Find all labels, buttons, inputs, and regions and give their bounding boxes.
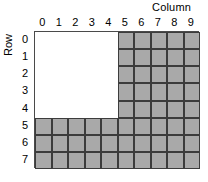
grid-cell[interactable] bbox=[101, 152, 118, 169]
grid-cell[interactable] bbox=[101, 66, 118, 83]
grid-cell[interactable] bbox=[167, 83, 184, 100]
grid-cell[interactable] bbox=[151, 83, 168, 100]
row-tick-4: 4 bbox=[18, 100, 32, 117]
grid-cell[interactable] bbox=[68, 83, 85, 100]
grid-cell[interactable] bbox=[35, 152, 52, 169]
grid-cell[interactable] bbox=[85, 83, 102, 100]
grid-cell[interactable] bbox=[52, 83, 69, 100]
grid-cell[interactable] bbox=[118, 83, 135, 100]
grid-cell[interactable] bbox=[68, 118, 85, 135]
column-tick-5: 5 bbox=[117, 16, 134, 29]
grid-cell[interactable] bbox=[35, 32, 52, 49]
grid-cell[interactable] bbox=[184, 66, 201, 83]
grid-cell[interactable] bbox=[68, 49, 85, 66]
row-tick-3: 3 bbox=[18, 82, 32, 99]
grid-cell[interactable] bbox=[68, 152, 85, 169]
grid-cell[interactable] bbox=[118, 118, 135, 135]
grid-cell[interactable] bbox=[35, 66, 52, 83]
grid-cell[interactable] bbox=[118, 152, 135, 169]
grid-cell[interactable] bbox=[118, 32, 135, 49]
row-tick-6: 6 bbox=[18, 134, 32, 151]
grid-cell[interactable] bbox=[167, 49, 184, 66]
grid-cell[interactable] bbox=[35, 118, 52, 135]
grid-cell[interactable] bbox=[134, 101, 151, 118]
grid-cell[interactable] bbox=[85, 49, 102, 66]
grid-cell[interactable] bbox=[68, 66, 85, 83]
grid-cell[interactable] bbox=[101, 118, 118, 135]
grid-cell[interactable] bbox=[167, 32, 184, 49]
grid-cell[interactable] bbox=[134, 66, 151, 83]
grid-cell[interactable] bbox=[85, 152, 102, 169]
grid-cell[interactable] bbox=[118, 135, 135, 152]
row-tick-labels: 01234567 bbox=[18, 31, 32, 168]
grid-cell[interactable] bbox=[85, 101, 102, 118]
grid-cell[interactable] bbox=[151, 66, 168, 83]
column-tick-8: 8 bbox=[166, 16, 183, 29]
column-tick-3: 3 bbox=[84, 16, 101, 29]
grid-cell[interactable] bbox=[151, 32, 168, 49]
grid-cell[interactable] bbox=[151, 135, 168, 152]
grid-cell[interactable] bbox=[101, 32, 118, 49]
grid-cell[interactable] bbox=[35, 101, 52, 118]
grid-cell[interactable] bbox=[35, 49, 52, 66]
grid-cell[interactable] bbox=[85, 118, 102, 135]
row-tick-7: 7 bbox=[18, 151, 32, 168]
grid-cell[interactable] bbox=[52, 66, 69, 83]
grid-cell[interactable] bbox=[52, 32, 69, 49]
grid-cell[interactable] bbox=[118, 101, 135, 118]
grid-cell[interactable] bbox=[184, 101, 201, 118]
grid-plot-area bbox=[34, 31, 199, 168]
grid-cell[interactable] bbox=[184, 49, 201, 66]
grid-cell[interactable] bbox=[134, 135, 151, 152]
grid-cell[interactable] bbox=[167, 135, 184, 152]
grid-cell[interactable] bbox=[101, 101, 118, 118]
column-tick-7: 7 bbox=[150, 16, 167, 29]
grid-cell[interactable] bbox=[68, 135, 85, 152]
grid-cell[interactable] bbox=[184, 152, 201, 169]
grid-cell[interactable] bbox=[167, 118, 184, 135]
column-tick-0: 0 bbox=[34, 16, 51, 29]
grid-cell[interactable] bbox=[35, 83, 52, 100]
grid-cell[interactable] bbox=[134, 83, 151, 100]
grid-cell[interactable] bbox=[52, 49, 69, 66]
grid-cell[interactable] bbox=[151, 152, 168, 169]
grid-cell[interactable] bbox=[184, 118, 201, 135]
figure-canvas: Column Row 0123456789 01234567 bbox=[0, 0, 208, 182]
grid-cell[interactable] bbox=[184, 83, 201, 100]
grid-cells bbox=[35, 32, 198, 167]
grid-cell[interactable] bbox=[35, 135, 52, 152]
grid-cell[interactable] bbox=[134, 32, 151, 49]
column-axis-title: Column bbox=[152, 1, 191, 13]
grid-cell[interactable] bbox=[118, 66, 135, 83]
column-tick-6: 6 bbox=[133, 16, 150, 29]
grid-cell[interactable] bbox=[68, 101, 85, 118]
grid-cell[interactable] bbox=[167, 66, 184, 83]
grid-cell[interactable] bbox=[85, 135, 102, 152]
grid-cell[interactable] bbox=[167, 101, 184, 118]
row-tick-1: 1 bbox=[18, 48, 32, 65]
grid-cell[interactable] bbox=[184, 32, 201, 49]
grid-cell[interactable] bbox=[101, 135, 118, 152]
grid-cell[interactable] bbox=[85, 66, 102, 83]
grid-cell[interactable] bbox=[134, 49, 151, 66]
grid-cell[interactable] bbox=[134, 152, 151, 169]
grid-cell[interactable] bbox=[134, 118, 151, 135]
grid-cell[interactable] bbox=[167, 152, 184, 169]
row-axis-title: Row bbox=[2, 28, 14, 62]
column-tick-4: 4 bbox=[100, 16, 117, 29]
grid-cell[interactable] bbox=[85, 32, 102, 49]
column-tick-1: 1 bbox=[51, 16, 68, 29]
grid-cell[interactable] bbox=[184, 135, 201, 152]
grid-cell[interactable] bbox=[52, 152, 69, 169]
grid-cell[interactable] bbox=[68, 32, 85, 49]
grid-cell[interactable] bbox=[151, 49, 168, 66]
grid-cell[interactable] bbox=[101, 83, 118, 100]
grid-cell[interactable] bbox=[118, 49, 135, 66]
grid-cell[interactable] bbox=[151, 101, 168, 118]
grid-cell[interactable] bbox=[151, 118, 168, 135]
column-tick-9: 9 bbox=[183, 16, 200, 29]
grid-cell[interactable] bbox=[52, 135, 69, 152]
grid-cell[interactable] bbox=[101, 49, 118, 66]
grid-cell[interactable] bbox=[52, 118, 69, 135]
grid-cell[interactable] bbox=[52, 101, 69, 118]
